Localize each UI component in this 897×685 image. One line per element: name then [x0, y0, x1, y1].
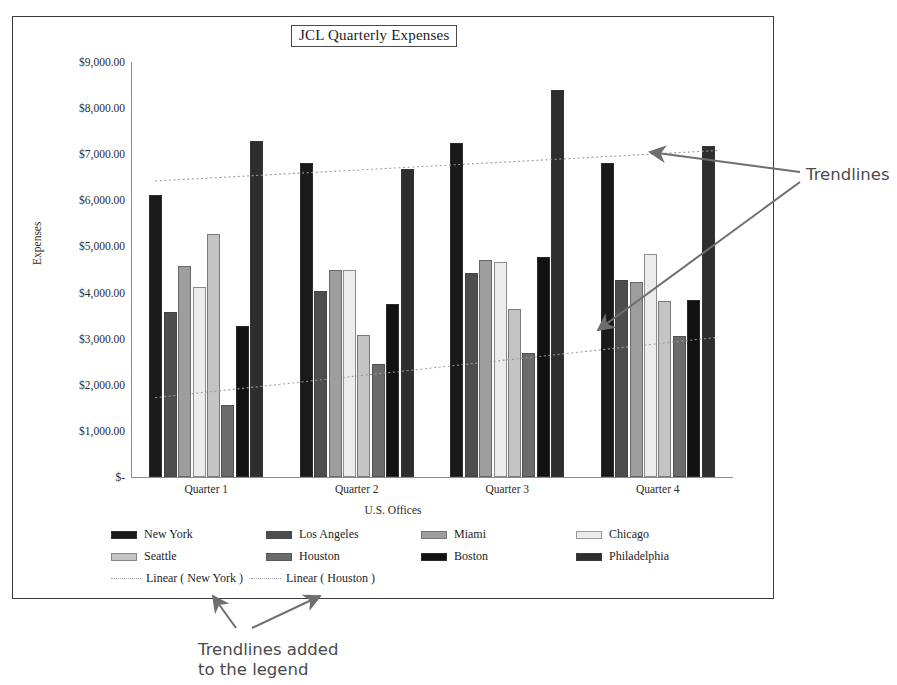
trendline[interactable] — [155, 337, 718, 397]
legend-item-label: Los Angeles — [299, 527, 359, 542]
y-axis-title: Expenses — [31, 222, 43, 265]
legend-color-swatch-icon — [266, 553, 292, 561]
y-axis-tick-label: $7,000.00 — [79, 148, 125, 160]
legend-item-label: Seattle — [144, 549, 177, 564]
y-axis-tick-label: $5,000.00 — [79, 240, 125, 252]
legend-color-swatch-icon — [576, 553, 602, 561]
trendline[interactable] — [155, 151, 718, 181]
y-axis-tick-label: $9,000.00 — [79, 56, 125, 68]
x-axis-tick-label: Quarter 3 — [485, 483, 529, 495]
legend-item-label: Boston — [454, 549, 488, 564]
y-axis-tick-labels: $9,000.00$8,000.00$7,000.00$6,000.00$5,0… — [13, 17, 125, 685]
legend-row-2: SeattleHoustonBostonPhiladelphia — [111, 549, 731, 564]
legend-item-label: Miami — [454, 527, 486, 542]
y-axis-tick-label: $8,000.00 — [79, 102, 125, 114]
legend-color-swatch-icon — [266, 531, 292, 539]
y-axis-tick-label: $1,000.00 — [79, 425, 125, 437]
arrow-to-legend-houston — [252, 596, 320, 628]
x-axis-line — [131, 477, 733, 478]
legend-item-label: New York — [144, 527, 193, 542]
legend-item[interactable]: Linear ( Houston ) — [251, 571, 375, 586]
legend-color-swatch-icon — [421, 531, 447, 539]
legend-item-label: Linear ( New York ) — [146, 571, 243, 586]
y-axis-tick-label: $4,000.00 — [79, 287, 125, 299]
legend-trendline-swatch-icon — [251, 578, 281, 579]
y-axis-tick-label: $6,000.00 — [79, 194, 125, 206]
legend-item[interactable]: Seattle — [111, 549, 266, 564]
x-axis-tick-label: Quarter 1 — [184, 483, 228, 495]
legend-item[interactable]: Chicago — [576, 527, 731, 542]
chart-legend: New YorkLos AngelesMiamiChicago SeattleH… — [111, 527, 731, 593]
legend-item[interactable]: Los Angeles — [266, 527, 421, 542]
trendlines-layer — [131, 62, 733, 477]
annotation-trendlines-legend: Trendlines added to the legend — [198, 640, 338, 680]
legend-item-label: Chicago — [609, 527, 649, 542]
chart-title: JCL Quarterly Expenses — [291, 25, 457, 47]
legend-row-trendlines: Linear ( New York )Linear ( Houston ) — [111, 571, 731, 586]
legend-color-swatch-icon — [111, 531, 137, 539]
legend-item[interactable]: New York — [111, 527, 266, 542]
legend-trendline-swatch-icon — [111, 578, 141, 579]
arrow-to-legend-ny — [213, 596, 236, 628]
legend-item-label: Houston — [299, 549, 340, 564]
legend-item[interactable]: Linear ( New York ) — [111, 571, 243, 586]
legend-row-1: New YorkLos AngelesMiamiChicago — [111, 527, 731, 542]
legend-item[interactable]: Miami — [421, 527, 576, 542]
legend-color-swatch-icon — [111, 553, 137, 561]
y-axis-tick-label: $- — [115, 471, 125, 483]
x-axis-title: U.S. Offices — [13, 504, 773, 516]
legend-item[interactable]: Houston — [266, 549, 421, 564]
chart-container: JCL Quarterly Expenses $9,000.00$8,000.0… — [12, 16, 774, 599]
legend-item[interactable]: Philadelphia — [576, 549, 731, 564]
y-axis-tick-label: $3,000.00 — [79, 333, 125, 345]
legend-color-swatch-icon — [576, 531, 602, 539]
legend-item-label: Philadelphia — [609, 549, 669, 564]
annotation-trendlines: Trendlines — [806, 165, 890, 185]
legend-item-label: Linear ( Houston ) — [286, 571, 375, 586]
legend-color-swatch-icon — [421, 553, 447, 561]
legend-item[interactable]: Boston — [421, 549, 576, 564]
x-axis-tick-label: Quarter 4 — [636, 483, 680, 495]
x-axis-tick-label: Quarter 2 — [335, 483, 379, 495]
y-axis-tick-label: $2,000.00 — [79, 379, 125, 391]
